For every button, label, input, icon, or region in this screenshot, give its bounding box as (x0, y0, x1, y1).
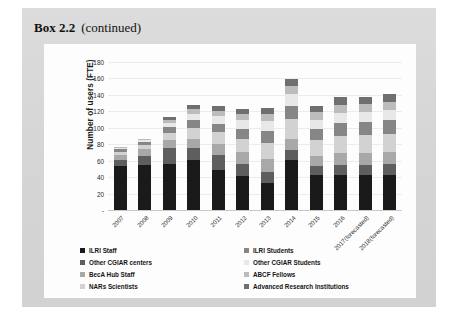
bar-segment (310, 166, 323, 174)
legend-item-label: NARs Scientists (89, 283, 138, 290)
bar-segment (212, 116, 225, 123)
legend-item[interactable]: ABCF Fellows (244, 268, 400, 280)
legend-item[interactable]: ILRI Students (244, 244, 400, 256)
bar-segment (261, 131, 274, 143)
stacked-bar[interactable] (138, 139, 151, 210)
stacked-bar[interactable] (163, 117, 176, 210)
y-tick-label: 120 (93, 108, 104, 115)
bar-slot (182, 62, 207, 210)
bar-segment (334, 113, 347, 123)
bar-slot (231, 62, 256, 210)
x-tick-slot: 2008 (133, 212, 158, 242)
bar-segment (359, 97, 372, 104)
bar-slot (304, 62, 329, 210)
y-tick-label: 80 (97, 141, 104, 148)
y-tick-label: 40 (97, 174, 104, 181)
bar-slot (280, 62, 305, 210)
bar-segment (383, 110, 396, 121)
x-tick-label: 2011 (209, 214, 223, 228)
x-tick-slot: 2009 (157, 212, 182, 242)
bar-segment (261, 114, 274, 121)
bar-segment (383, 134, 396, 152)
bar-segment (236, 139, 249, 152)
bar-segment (212, 132, 225, 144)
bar-segment (261, 143, 274, 159)
legend-item-label: BecA Hub Staff (89, 271, 135, 278)
bar-segment (310, 120, 323, 129)
bar-segment (383, 94, 396, 101)
bar-segment (285, 119, 298, 139)
legend-item[interactable]: Advanced Research Institutions (244, 280, 400, 292)
y-tick-label: 60 (97, 157, 104, 164)
bar-segment (310, 112, 323, 119)
legend-swatch-icon (244, 284, 249, 289)
bar-segment (359, 122, 372, 135)
legend-swatch-icon (80, 260, 85, 265)
x-tick-slot: 2018(forecasted) (378, 212, 403, 242)
legend-swatch-icon (244, 260, 249, 265)
stacked-bar[interactable] (212, 106, 225, 210)
bar-segment (163, 133, 176, 140)
bar-segment (383, 175, 396, 210)
x-tick-slot: 2010 (182, 212, 207, 242)
x-tick-slot: 2013 (255, 212, 280, 242)
bar-segment (334, 123, 347, 136)
x-tick-label: 2012 (233, 214, 248, 229)
bar-segment (236, 120, 249, 129)
stacked-bar[interactable] (359, 97, 372, 210)
stacked-bar[interactable] (383, 94, 396, 210)
x-tick-label: 2015 (307, 214, 322, 229)
bar-segment (212, 170, 225, 210)
stacked-bar[interactable] (187, 105, 200, 210)
legend-item[interactable]: Other CGIAR centers (80, 256, 236, 268)
bar-slot (329, 62, 354, 210)
stacked-bar[interactable] (285, 79, 298, 210)
bar-segment (187, 160, 200, 210)
bar-segment (310, 140, 323, 156)
y-axis-ticks: 18016014012010080604020- (72, 62, 104, 210)
x-tick-slot: 2014 (280, 212, 305, 242)
x-tick-label: 2008 (135, 214, 150, 229)
stacked-bar[interactable] (334, 97, 347, 210)
legend-swatch-icon (244, 272, 249, 277)
box-title: Box 2.2(continued) (34, 20, 141, 36)
legend-item-label: Other CGIAR Students (253, 259, 321, 266)
bar-segment (359, 165, 372, 175)
legend-item[interactable]: NARs Scientists (80, 280, 236, 292)
bar-segment (359, 153, 372, 165)
y-tick-label: 160 (93, 75, 104, 82)
x-tick-slot: 2007 (108, 212, 133, 242)
stacked-bar[interactable] (261, 108, 274, 210)
bar-segment (285, 94, 298, 106)
bar-slot (206, 62, 231, 210)
y-tick-label: - (102, 207, 104, 214)
bar-segment (236, 164, 249, 176)
bar-segment (310, 175, 323, 210)
legend-item[interactable]: ILRI Staff (80, 244, 236, 256)
bar-segment (334, 105, 347, 113)
bar-segment (163, 148, 176, 164)
legend-swatch-icon (80, 272, 85, 277)
legend-item-label: ILRI Students (253, 247, 294, 254)
bar-segment (285, 160, 298, 210)
bar-segment (212, 124, 225, 132)
stacked-bar[interactable] (310, 106, 323, 210)
bar-segment (236, 129, 249, 139)
stacked-bar[interactable] (236, 109, 249, 210)
legend-item-label: ILRI Staff (89, 247, 117, 254)
bar-segment (261, 172, 274, 183)
bar-slot (353, 62, 378, 210)
bar-segment (383, 102, 396, 110)
plot-area: Number of users (FTE) 180160140120100806… (44, 44, 416, 240)
bar-segment (163, 164, 176, 210)
bar-segment (285, 150, 298, 160)
bar-segment (334, 136, 347, 153)
legend-item[interactable]: BecA Hub Staff (80, 268, 236, 280)
stacked-bar[interactable] (114, 147, 127, 210)
legend-swatch-icon (244, 248, 249, 253)
bar-slot (133, 62, 158, 210)
y-tick-label: 20 (97, 190, 104, 197)
bar-segment (187, 148, 200, 160)
legend-item[interactable]: Other CGIAR Students (244, 256, 400, 268)
bar-slot (108, 62, 133, 210)
